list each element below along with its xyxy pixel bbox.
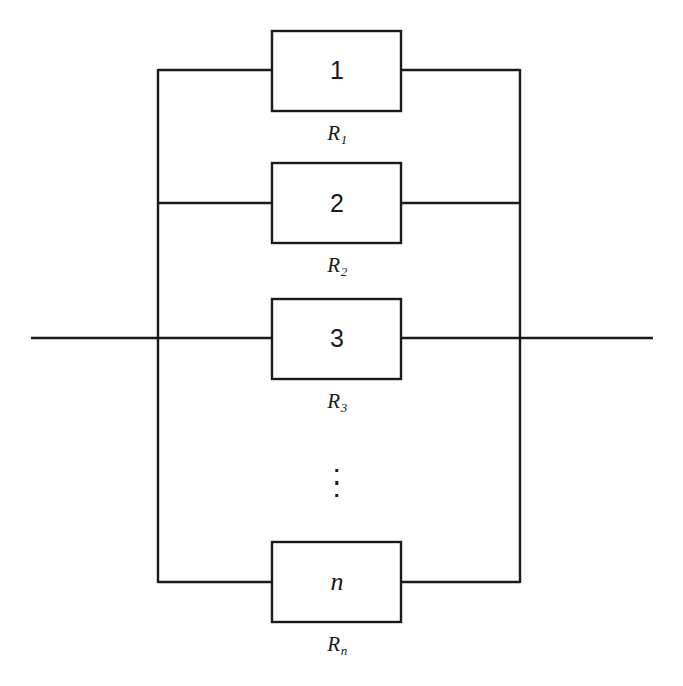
resistor-label-3-subscript: 3: [341, 400, 348, 415]
resistor-box-3-number: 3: [330, 324, 344, 352]
resistor-label-3: R3: [327, 389, 347, 414]
resistor-label-n: Rn: [327, 632, 347, 657]
ellipsis-dot: [335, 494, 338, 497]
resistor-label-1-subscript: 1: [341, 132, 348, 147]
circuit-schematic: 1 2 3 n: [0, 0, 683, 686]
resistor-label-2-symbol: R: [327, 253, 340, 277]
resistor-label-3-symbol: R: [327, 389, 340, 413]
resistor-label-2-subscript: 2: [341, 264, 348, 279]
ellipsis-dot: [335, 481, 338, 484]
resistor-label-n-symbol: R: [327, 632, 340, 656]
resistor-label-2: R2: [327, 253, 347, 278]
resistor-label-1-symbol: R: [327, 121, 340, 145]
resistor-box-n-number: n: [331, 567, 344, 596]
parallel-resistor-figure: 1 2 3 n R1 R2 R3 Rn: [0, 0, 683, 686]
resistor-box-1-number: 1: [330, 56, 344, 84]
resistor-label-n-subscript: n: [341, 643, 348, 658]
resistor-label-1: R1: [327, 121, 347, 146]
ellipsis-dot: [335, 469, 338, 472]
vertical-ellipsis-icon: [335, 469, 338, 497]
resistor-box-2-number: 2: [330, 189, 344, 217]
